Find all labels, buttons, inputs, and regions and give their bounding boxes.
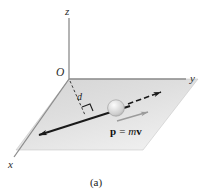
momentum-v-symbol: v <box>136 125 142 137</box>
angular-momentum-diagram: O z y x d p=mv (a) <box>0 0 207 194</box>
momentum-m-symbol: m <box>128 125 136 137</box>
momentum-p-symbol: p <box>110 125 116 137</box>
particle-sphere <box>108 100 125 116</box>
origin-label: O <box>56 66 65 78</box>
x-axis-label: x <box>7 158 13 170</box>
y-axis-label: y <box>189 72 195 84</box>
figure-container: O z y x d p=mv (a) <box>0 0 207 194</box>
momentum-equals-symbol: = <box>119 125 125 137</box>
z-axis-label: z <box>64 5 70 17</box>
figure-caption: (a) <box>90 176 103 189</box>
